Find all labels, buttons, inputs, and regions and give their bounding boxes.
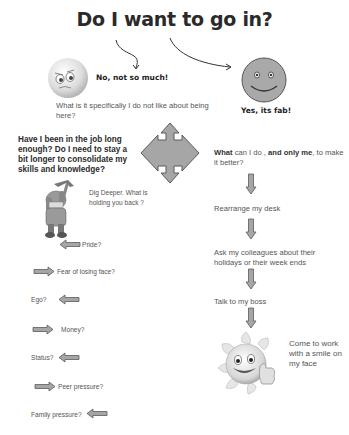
left-arrow-icon bbox=[59, 239, 81, 250]
reason-item: Peer pressure? bbox=[58, 383, 103, 391]
reason-item: Ego? bbox=[31, 296, 46, 304]
step-item: Ask my colleagues about their holidays o… bbox=[214, 248, 334, 267]
no-branch-label: No, not so much! bbox=[96, 73, 168, 82]
dig-deeper-text: Dig Deeper. What is holding you back ? bbox=[89, 188, 169, 208]
left-arrow-icon bbox=[86, 408, 108, 419]
step-item: Come to work with a smile on my face bbox=[289, 339, 347, 369]
page-title: Do I want to go in? bbox=[0, 8, 349, 30]
smiley-face-icon bbox=[240, 56, 288, 104]
step-item: Talk to my boss bbox=[214, 297, 266, 307]
yes-branch-label: Yes, its fab! bbox=[241, 106, 291, 115]
reason-item: Pride? bbox=[82, 241, 101, 249]
down-arrow-icon bbox=[245, 307, 257, 329]
yes-branch-question: What can I do , and only me, to make it … bbox=[214, 148, 344, 167]
reason-item: Family pressure? bbox=[31, 411, 82, 419]
reason-item: Fear of losing face? bbox=[57, 268, 115, 276]
left-arrow-icon bbox=[58, 352, 80, 363]
center-question: Have I been in the job long enough? Do I… bbox=[18, 135, 138, 175]
sun-thumbs-up-icon bbox=[216, 330, 284, 398]
down-arrow-icon bbox=[245, 268, 257, 290]
right-arrow-icon bbox=[34, 381, 56, 392]
right-arrow-icon bbox=[32, 324, 54, 335]
four-way-arrow-icon bbox=[138, 120, 202, 186]
reason-item: Money? bbox=[61, 326, 84, 334]
miner-digging-icon bbox=[34, 178, 84, 240]
down-arrow-icon bbox=[245, 218, 257, 240]
curved-arrows-icon bbox=[110, 36, 240, 76]
right-arrow-icon bbox=[33, 266, 55, 277]
no-branch-question: What is it specifically I do not like ab… bbox=[56, 101, 216, 120]
sad-face-icon bbox=[46, 57, 90, 99]
step-item: Rearrange my desk bbox=[214, 204, 280, 214]
left-arrow-icon bbox=[58, 294, 80, 305]
reason-item: Status? bbox=[31, 354, 53, 362]
down-arrow-icon bbox=[245, 173, 257, 195]
